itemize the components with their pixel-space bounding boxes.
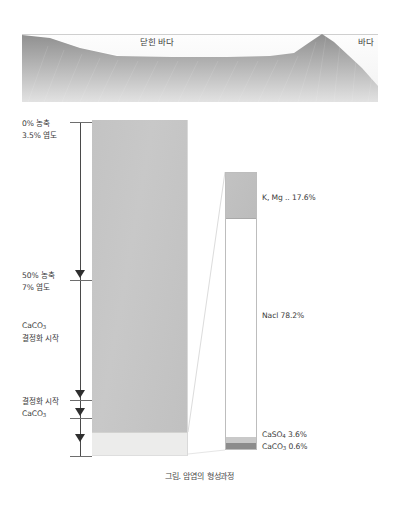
water-surface-line bbox=[22, 34, 378, 35]
axis-tick-caso4 bbox=[70, 418, 92, 419]
caso4-text: CaSO bbox=[262, 430, 282, 439]
axis-label-top-line1: 0% 농축 bbox=[22, 118, 57, 130]
axis-arrow-caso4 bbox=[75, 408, 85, 416]
axis-line bbox=[80, 122, 81, 456]
caco3-text-comp: CaCO bbox=[262, 442, 283, 451]
composition-segment-kmg bbox=[226, 173, 256, 219]
figure-root: 닫힌 바다 바다 0% 농축 3.5% 염도 50% 농축 7% 염도 CaCO… bbox=[0, 0, 399, 509]
caco3-subscript-comp: 3 bbox=[283, 445, 286, 451]
seawater-column-residue bbox=[92, 432, 188, 456]
callout-line-upper bbox=[188, 172, 225, 432]
terrain-cross-section: 닫힌 바다 바다 bbox=[22, 16, 378, 102]
axis-label-bottom: 결정화 시작 CaCO3 bbox=[22, 396, 59, 420]
seawater-column-bar bbox=[92, 120, 188, 454]
caco3-subscript: 3 bbox=[43, 324, 46, 330]
figure-caption: 그림. 암염의 형성과정 bbox=[0, 470, 399, 481]
caco3-percent: 0.6% bbox=[286, 442, 307, 451]
axis-label-top: 0% 농축 3.5% 염도 bbox=[22, 118, 57, 141]
composition-segment-caco3 bbox=[226, 443, 256, 449]
caso4-subscript: 4 bbox=[282, 433, 285, 439]
callout-line-lower bbox=[188, 450, 225, 454]
axis-label-bottom-formula: CaCO3 bbox=[22, 408, 59, 421]
caco3-text: CaCO bbox=[22, 321, 43, 330]
axis-label-bottom-crystallize: 결정화 시작 bbox=[22, 396, 59, 408]
concentration-axis bbox=[68, 118, 94, 460]
axis-arrow-caco3 bbox=[75, 390, 85, 398]
terrain-svg bbox=[22, 16, 378, 102]
axis-label-caco3-formula: CaCO3 bbox=[22, 320, 59, 333]
axis-label-caco3-start: CaCO3 결정화 시작 bbox=[22, 320, 59, 344]
terrain-label-closed-sea: 닫힌 바다 bbox=[140, 35, 174, 47]
axis-tick-caco3 bbox=[70, 400, 92, 401]
axis-label-mid: 50% 농축 7% 염도 bbox=[22, 270, 55, 293]
axis-label-top-line2: 3.5% 염도 bbox=[22, 130, 57, 142]
caco3-subscript-bottom: 3 bbox=[43, 412, 46, 418]
caco3-text-bottom: CaCO bbox=[22, 409, 43, 418]
terrain-label-sea: 바다 bbox=[358, 35, 374, 47]
composition-segment-nacl bbox=[226, 219, 256, 437]
axis-arrow-bottom bbox=[75, 434, 85, 442]
axis-label-caco3-crystallize: 결정화 시작 bbox=[22, 333, 59, 345]
caso4-percent: 3.6% bbox=[286, 430, 307, 439]
composition-label-kmg: K, Mg .. 17.6% bbox=[262, 192, 316, 203]
axis-label-mid-line2: 7% 염도 bbox=[22, 282, 55, 294]
composition-label-caso4: CaSO4 3.6% bbox=[262, 429, 307, 441]
axis-tick-bottom bbox=[70, 456, 92, 457]
composition-label-caco3: CaCO3 0.6% bbox=[262, 441, 307, 453]
axis-arrow-50pct bbox=[75, 270, 85, 278]
composition-label-nacl: Nacl 78.2% bbox=[262, 310, 304, 321]
salt-composition-bar bbox=[225, 172, 257, 450]
axis-tick-top bbox=[70, 122, 92, 123]
axis-tick-50pct bbox=[70, 280, 92, 281]
axis-label-mid-line1: 50% 농축 bbox=[22, 270, 55, 282]
